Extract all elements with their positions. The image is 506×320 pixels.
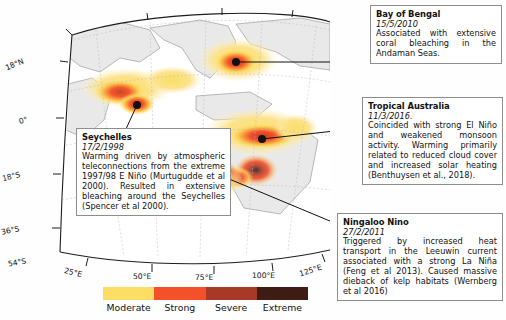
lon-tick-50E: 50°E	[133, 272, 151, 281]
callout-body: Coincided with strong El Niño and weaken…	[368, 121, 497, 180]
callout-title: Ningaloo Nino	[343, 217, 497, 227]
legend-labels: Moderate Strong Severe Extreme	[103, 302, 308, 313]
callout-seychelles: Seychelles 17/2/1998 Warming driven by a…	[76, 128, 231, 216]
legend-color-bar	[103, 287, 308, 300]
legend-label-severe: Severe	[206, 302, 257, 313]
callout-title: Seychelles	[82, 132, 225, 142]
legend-swatch-extreme	[257, 287, 308, 300]
callout-title: Tropical Australia	[368, 101, 497, 111]
callout-body: Triggered by increased heat transport in…	[343, 237, 497, 296]
legend-label-strong: Strong	[154, 302, 205, 313]
marker-bay-of-bengal	[232, 58, 240, 66]
lon-tick-75E: 75°E	[195, 273, 213, 282]
severity-legend: Moderate Strong Severe Extreme	[103, 287, 308, 313]
marker-seychelles	[133, 101, 141, 109]
callout-ningaloo-nino: Ningaloo Nino 27/2/2011 Triggered by inc…	[337, 213, 503, 301]
lon-tick-100E: 100°E	[252, 271, 275, 280]
legend-label-extreme: Extreme	[257, 302, 308, 313]
legend-label-moderate: Moderate	[103, 302, 154, 313]
legend-swatch-severe	[206, 287, 257, 300]
callout-body: Warming driven by atmospheric teleconnec…	[82, 152, 225, 211]
marine-heatwave-figure: 18°N 0° 18°S 36°S 54°S 25°E 50°E 75°E 10…	[0, 0, 506, 320]
legend-swatch-moderate	[103, 287, 154, 300]
legend-swatch-strong	[154, 287, 205, 300]
callout-tropical-australia: Tropical Australia 11/3/2016. Coincided …	[362, 97, 503, 185]
callout-body: Associated with extensive coral bleachin…	[376, 29, 496, 59]
callout-title: Bay of Bengal	[376, 9, 496, 19]
callout-bay-of-bengal: Bay of Bengal 15/5/2010 Associated with …	[370, 5, 502, 64]
marker-tropical-australia	[258, 135, 266, 143]
